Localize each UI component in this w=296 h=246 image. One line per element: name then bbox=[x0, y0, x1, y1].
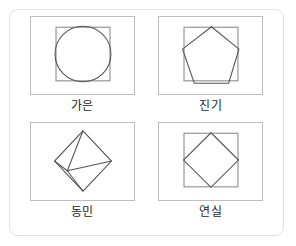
panel-pentagon-frame bbox=[158, 16, 263, 95]
tetrahedron-wireframe-icon bbox=[31, 123, 134, 200]
panel-circle: 가은 bbox=[18, 16, 147, 122]
panel-tetrahedron-label: 동민 bbox=[71, 206, 94, 218]
panel-pentagon-label: 진기 bbox=[199, 100, 222, 112]
diamond-in-square-icon bbox=[159, 123, 262, 200]
pentagon-in-square-icon bbox=[159, 17, 262, 94]
panel-diamond-label: 연실 bbox=[199, 206, 222, 218]
panel-circle-frame bbox=[30, 16, 135, 95]
circle-in-square-icon bbox=[31, 17, 134, 94]
panel-circle-label: 가은 bbox=[71, 100, 94, 112]
panel-diamond-frame bbox=[158, 122, 263, 201]
panel-tetrahedron-frame bbox=[30, 122, 135, 201]
figures-card: 가은 진기 bbox=[9, 9, 284, 236]
panel-tetrahedron: 동민 bbox=[18, 122, 147, 228]
panel-diamond: 연실 bbox=[147, 122, 276, 228]
panel-pentagon: 진기 bbox=[147, 16, 276, 122]
figures-grid: 가은 진기 bbox=[10, 10, 283, 235]
